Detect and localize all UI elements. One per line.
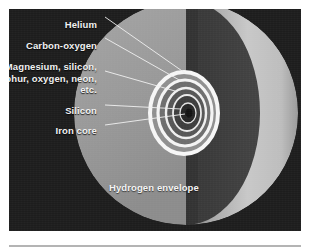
label-hydrogen-envelope: Hydrogen envelope (109, 182, 199, 193)
label-helium: Helium (65, 19, 97, 31)
iron-core-center (186, 109, 193, 118)
star-interior-figure: Helium Carbon-oxygen Magnesium, silicon,… (0, 0, 310, 252)
label-silicon: Silicon (65, 105, 97, 117)
label-heavy-elements: Magnesium, silicon, sulphur, oxygen, neo… (9, 61, 97, 96)
core-shell-stack (150, 72, 218, 154)
caption-divider-rule (9, 245, 301, 247)
illustration-panel: Helium Carbon-oxygen Magnesium, silicon,… (9, 9, 301, 231)
label-iron-core: Iron core (55, 125, 97, 137)
label-carbon-oxygen: Carbon-oxygen (26, 40, 97, 52)
